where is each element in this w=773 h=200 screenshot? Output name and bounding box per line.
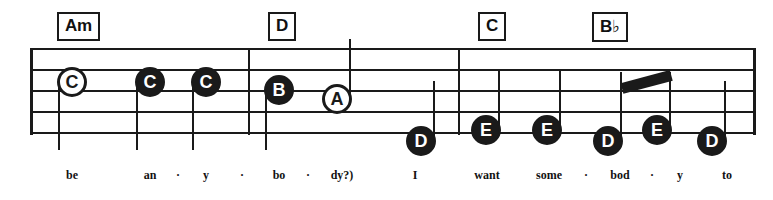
lyric-separator: ·	[240, 168, 244, 183]
lyric-syllable: want	[474, 168, 499, 183]
lyric-syllable: I	[413, 168, 418, 183]
notehead-e: E	[642, 115, 672, 145]
notehead-e: E	[471, 115, 501, 145]
notehead-b: B	[264, 75, 294, 105]
notehead-d: D	[593, 126, 623, 156]
chord-am: Am	[57, 12, 100, 41]
lyric-syllable: bo	[273, 168, 286, 183]
chord-c: C	[478, 12, 506, 41]
barline-2	[248, 48, 250, 135]
lyric-syllable: be	[66, 168, 78, 183]
notehead-d: D	[406, 126, 436, 156]
lyric-syllable: to	[722, 168, 732, 183]
lyric-separator: ·	[306, 168, 310, 183]
notehead-c: C	[191, 67, 221, 97]
lyric-separator: ·	[650, 168, 654, 183]
note-stem	[620, 72, 622, 141]
notehead-a: A	[322, 84, 352, 114]
lyric-syllable: dy?)	[331, 168, 354, 183]
chord-label: B	[600, 17, 612, 36]
music-notation-sheet: AmDCB♭ CCCBADEEDED bean·y·bo·dy?)Iwantso…	[0, 0, 773, 200]
barline-4	[753, 48, 756, 135]
lyric-syllable: an	[144, 168, 157, 183]
lyric-separator: ·	[584, 168, 588, 183]
chord-label: Am	[65, 16, 92, 35]
notehead-c: C	[57, 67, 87, 97]
notehead-c: C	[135, 67, 165, 97]
chord-label: C	[486, 16, 498, 35]
note-stem	[136, 82, 138, 150]
chord-d: D	[268, 12, 296, 41]
lyric-separator: ·	[176, 168, 180, 183]
staff-line-4	[30, 111, 753, 113]
note-stem	[58, 82, 60, 150]
notehead-d: D	[697, 126, 727, 156]
chord-bb: B♭	[592, 12, 628, 42]
lyric-syllable: y	[677, 168, 683, 183]
chord-label: D	[276, 16, 288, 35]
lyric-syllable: y	[203, 168, 209, 183]
lyric-syllable: some	[536, 168, 562, 183]
staff-line-1	[30, 48, 753, 50]
barline-3	[458, 48, 460, 135]
notehead-e: E	[532, 115, 562, 145]
barline-1	[30, 48, 33, 135]
flat-icon: ♭	[612, 16, 620, 36]
lyric-syllable: bod	[610, 168, 629, 183]
note-stem	[192, 82, 194, 150]
